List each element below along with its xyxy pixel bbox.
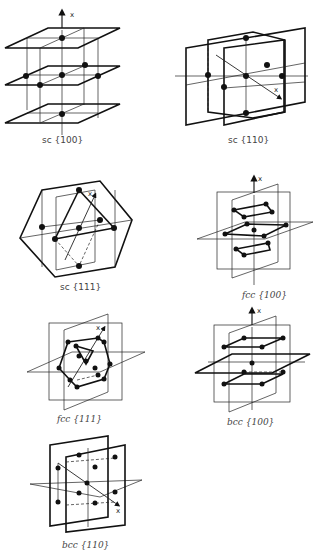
x-axis-label: x bbox=[258, 175, 262, 183]
panel-fcc-111: x fcc {111} bbox=[27, 314, 145, 424]
panel-sc-100: x sc {100} bbox=[5, 11, 120, 145]
panel-label: sc {111} bbox=[60, 282, 101, 292]
panel-bcc-100: x bcc {100} bbox=[195, 307, 310, 427]
x-axis-label: x bbox=[70, 11, 74, 19]
panel-label: sc {100} bbox=[42, 135, 83, 145]
panel-label: fcc {100} bbox=[241, 290, 287, 300]
x-axis-label: x bbox=[116, 507, 120, 515]
crystal-planes-diagram: x sc {100} x bbox=[0, 0, 327, 560]
panel-sc-111: x sc {111} bbox=[20, 181, 132, 292]
panel-fcc-100: x fcc {100} bbox=[197, 175, 313, 300]
panel-sc-110: x sc {110} bbox=[175, 28, 308, 145]
x-axis-label: x bbox=[96, 324, 100, 332]
x-axis-label: x bbox=[257, 307, 261, 315]
x-axis-label: x bbox=[274, 86, 278, 94]
panel-bcc-110: x bcc {110} bbox=[30, 436, 142, 550]
x-axis-label: x bbox=[88, 190, 92, 198]
panel-label: sc {110} bbox=[228, 135, 269, 145]
panel-label: fcc {111} bbox=[56, 414, 102, 424]
panel-label: bcc {110} bbox=[62, 540, 109, 550]
panel-label: bcc {100} bbox=[227, 417, 274, 427]
